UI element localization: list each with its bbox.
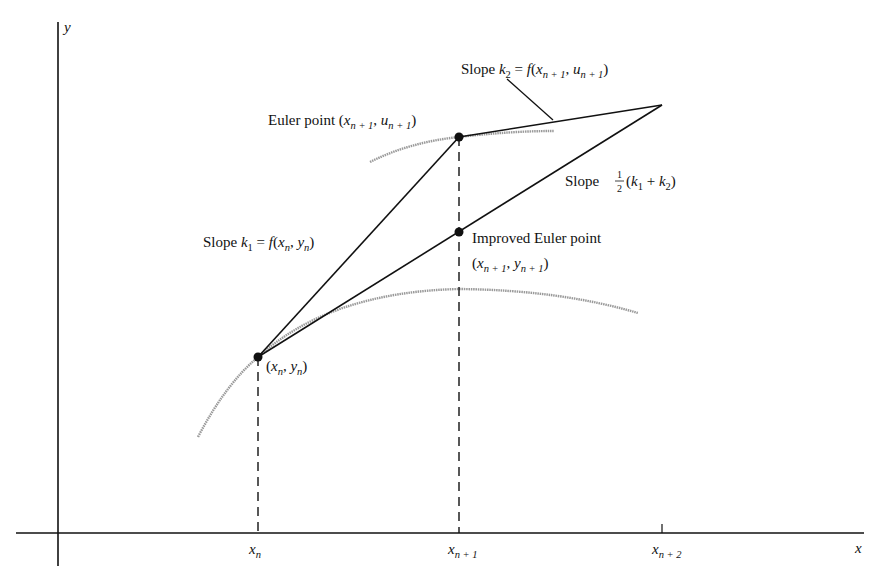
improved-euler-diagram: y x xn xn + 1 xn + 2 Slope k2 = f(xn + 1… [0,0,886,581]
slope-average-label: Slope [565,173,600,189]
improved-euler-coords: (xn + 1, yn + 1) [472,255,549,274]
tick-label-x-n-plus-1: xn + 1 [447,541,478,560]
tick-label-x-n: xn [248,541,261,560]
k2-leader-line [507,79,553,120]
fraction-numerator: 1 [617,169,622,180]
tick-label-x-n-plus-2: xn + 2 [651,541,682,560]
slope-k1-label: Slope k1 = f(xn, yn) [203,234,314,253]
slope-k2-line [459,105,662,137]
euler-point-label: Euler point (xn + 1, un + 1) [268,112,416,131]
fraction-denominator: 2 [617,183,622,194]
x-axis-label: x [854,540,862,556]
improved-euler-point [455,228,464,237]
solution-curve-lower [198,289,638,437]
y-axis-label: y [62,19,71,35]
start-point-label: (xn, yn) [266,358,307,377]
slope-k2-label: Slope k2 = f(xn + 1, un + 1) [461,61,608,80]
improved-euler-label: Improved Euler point [472,230,602,246]
start-point [254,353,263,362]
slope-average-expression: (k1 + k2) [626,173,676,192]
euler-point [455,133,464,142]
